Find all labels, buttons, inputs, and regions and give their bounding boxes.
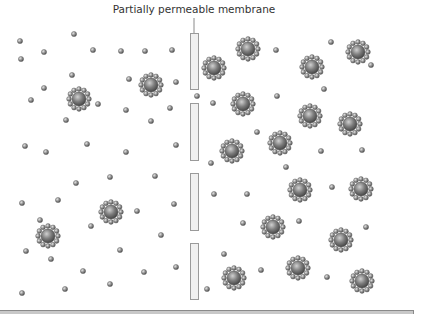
large-solute-particle	[202, 56, 227, 81]
small-particle	[62, 286, 67, 291]
small-particle	[48, 256, 53, 261]
small-particle	[90, 47, 95, 52]
small-particle	[141, 269, 146, 274]
small-particle	[19, 200, 24, 205]
large-solute-particle	[99, 200, 124, 225]
large-solute-particle	[220, 139, 245, 164]
small-particle	[107, 174, 112, 179]
small-particle	[173, 79, 178, 84]
small-particle	[296, 218, 301, 223]
small-particle	[258, 267, 263, 272]
small-particle	[107, 281, 112, 286]
small-particle	[368, 62, 373, 67]
small-particle	[210, 100, 215, 105]
small-particle	[152, 173, 157, 178]
small-particle	[359, 147, 364, 152]
small-particle	[324, 274, 329, 279]
small-particle	[84, 141, 89, 146]
small-particle	[318, 148, 323, 153]
membrane-segment-4	[191, 244, 199, 300]
small-particle	[363, 224, 368, 229]
small-particle	[71, 31, 76, 36]
small-particle	[221, 251, 226, 256]
small-particle	[244, 191, 249, 196]
small-particle	[329, 184, 334, 189]
small-particle	[69, 72, 74, 77]
small-particle	[171, 201, 176, 206]
large-solute-particle	[67, 87, 92, 112]
large-solute-particle	[231, 92, 256, 117]
small-particle	[88, 223, 93, 228]
small-particle	[123, 149, 128, 154]
small-particle	[19, 290, 24, 295]
small-particle	[73, 180, 78, 185]
small-particle	[240, 220, 245, 225]
large-solute-particle	[36, 224, 61, 249]
small-particle	[321, 86, 326, 91]
small-particle	[18, 56, 23, 61]
small-particle	[41, 85, 46, 90]
small-particle	[169, 47, 174, 52]
small-particle	[22, 143, 27, 148]
small-particle	[328, 39, 333, 44]
small-particle	[173, 142, 178, 147]
small-particle	[167, 105, 172, 110]
small-particle	[23, 248, 28, 253]
small-particle	[208, 160, 213, 165]
membrane-segment-2	[191, 104, 199, 161]
partially-permeable-membrane	[191, 34, 199, 300]
small-particle	[148, 118, 153, 123]
large-solute-particle	[349, 177, 374, 202]
small-particle	[211, 191, 216, 196]
small-particle	[95, 101, 100, 106]
small-particle	[126, 76, 131, 81]
small-particle	[142, 48, 147, 53]
small-particle	[283, 164, 288, 169]
large-solute-particle	[286, 256, 311, 281]
large-solute-particle	[268, 131, 293, 156]
large-solute-particle	[298, 104, 323, 129]
small-particle	[63, 117, 68, 122]
large-solute-particle	[288, 178, 313, 203]
large-solute-particle	[222, 266, 247, 291]
membrane-segment-1	[191, 34, 199, 90]
large-solute-particle	[350, 269, 375, 294]
small-particle	[134, 208, 139, 213]
large-solute-particle	[300, 55, 325, 80]
right-solution-particles	[194, 37, 374, 294]
small-particle	[123, 107, 128, 112]
large-solute-particle	[338, 112, 363, 137]
small-particle	[118, 48, 123, 53]
small-particle	[204, 286, 209, 291]
small-particle	[194, 93, 199, 98]
small-particle	[273, 47, 278, 52]
large-solute-particle	[329, 228, 354, 253]
small-particle	[80, 268, 85, 273]
left-solution-particles	[17, 31, 178, 295]
small-particle	[28, 97, 33, 102]
small-particle	[37, 217, 42, 222]
small-particle	[55, 197, 60, 202]
small-particle	[158, 232, 163, 237]
small-particle	[173, 264, 178, 269]
small-particle	[254, 129, 259, 134]
membrane-segment-3	[191, 174, 199, 231]
small-particle	[117, 247, 122, 252]
small-particle	[41, 49, 46, 54]
large-solute-particle	[261, 215, 286, 240]
large-solute-particle	[236, 37, 261, 62]
large-solute-particle	[346, 40, 371, 65]
small-particle	[274, 93, 279, 98]
large-solute-particle	[139, 73, 164, 98]
small-particle	[43, 149, 48, 154]
small-particle	[17, 38, 22, 43]
bottom-bar	[0, 310, 414, 314]
